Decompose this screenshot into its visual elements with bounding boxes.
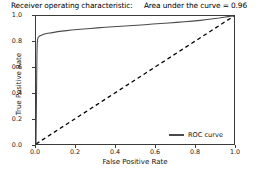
- x-tick-mark: [35, 145, 36, 148]
- chart-title: Receiver operating characteristic: Area …: [0, 1, 258, 10]
- y-axis-label: True Positive Rate: [15, 39, 23, 129]
- x-tick-label: 0.2: [60, 148, 90, 156]
- x-tick-label: 1.0: [220, 148, 250, 156]
- plot-area: [35, 15, 235, 145]
- x-tick-label: 0.0: [20, 148, 50, 156]
- plot-svg: [36, 16, 234, 144]
- x-tick-mark: [155, 145, 156, 148]
- y-tick-mark: [32, 15, 35, 16]
- x-tick-mark: [235, 145, 236, 148]
- x-tick-mark: [195, 145, 196, 148]
- x-tick-label: 0.8: [180, 148, 210, 156]
- legend-label-roc-curve: ROC curve: [188, 131, 223, 139]
- y-tick-label: 0.0: [0, 141, 22, 149]
- x-tick-label: 0.4: [100, 148, 130, 156]
- y-tick-mark: [32, 119, 35, 120]
- chart-legend: ROC curve: [166, 130, 226, 140]
- y-tick-mark: [32, 67, 35, 68]
- y-tick-mark: [32, 41, 35, 42]
- x-tick-label: 0.6: [140, 148, 170, 156]
- legend-swatch-roc-curve: [169, 134, 184, 135]
- y-tick-label: 1.0: [0, 11, 22, 19]
- roc-chart-figure: Receiver operating characteristic: Area …: [0, 0, 258, 176]
- x-tick-mark: [75, 145, 76, 148]
- x-axis-label: False Positive Rate: [35, 158, 235, 166]
- y-tick-mark: [32, 93, 35, 94]
- chance-diagonal-line: [36, 16, 234, 144]
- x-tick-mark: [115, 145, 116, 148]
